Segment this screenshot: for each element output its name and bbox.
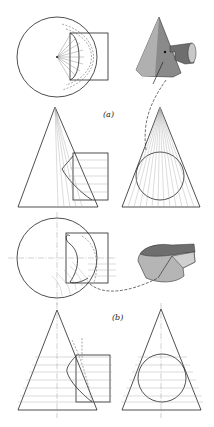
part-b-top-view xyxy=(8,212,116,305)
technical-drawing: (a) xyxy=(0,0,214,427)
label-part-b: (b) xyxy=(112,313,123,322)
part-a-front-view xyxy=(18,107,108,207)
cone-outline xyxy=(18,310,97,410)
part-b-pictorial-view xyxy=(138,244,195,282)
part-a-pictorial-view xyxy=(136,17,196,84)
cone-outline xyxy=(122,107,200,207)
cylinder-circle xyxy=(138,354,186,402)
crescent-intersection xyxy=(66,235,88,283)
element-lines xyxy=(128,107,194,207)
label-part-a: (a) xyxy=(103,110,114,119)
section-lines xyxy=(18,357,112,402)
part-b-side-view xyxy=(121,303,203,418)
radial-lines xyxy=(57,35,84,79)
part-a-top-view xyxy=(17,17,108,97)
hidden-arc xyxy=(82,236,97,282)
section-lines xyxy=(121,357,203,402)
part-a-side-view xyxy=(122,107,200,207)
projection-route-b xyxy=(90,278,158,291)
cylinder-end xyxy=(188,43,196,63)
intersection-curve xyxy=(67,356,92,402)
cone-outline xyxy=(122,309,201,410)
part-b-front-view xyxy=(18,303,112,418)
intersection-curve xyxy=(70,33,79,80)
apex-point xyxy=(56,56,58,58)
cylinder-outline xyxy=(76,355,110,402)
element-lines xyxy=(55,107,108,207)
